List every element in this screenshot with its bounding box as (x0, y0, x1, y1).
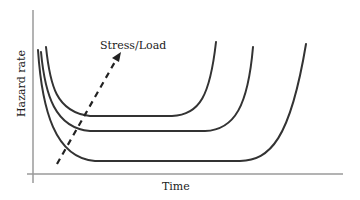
stress-load-label: Stress/Load (100, 39, 166, 52)
bathtub-chart: Stress/Load Time Hazard rate (0, 0, 360, 200)
stress-arrow-head (112, 52, 121, 62)
y-axis-label: Hazard rate (15, 50, 28, 117)
curve-high-stress (46, 42, 216, 116)
curve-medium-stress (41, 47, 253, 131)
x-axis-label: Time (162, 180, 190, 193)
curve-low-stress (38, 44, 306, 161)
